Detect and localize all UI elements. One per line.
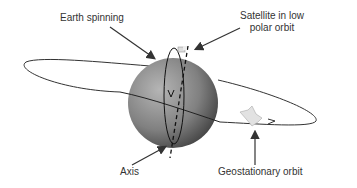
label-earth-spinning: Earth spinning [60, 12, 124, 24]
satellite-pointer [196, 28, 240, 49]
earth-globe [128, 58, 218, 148]
label-geostationary: Geostationary orbit [218, 166, 303, 178]
label-satellite-polar: Satellite in low polar orbit [240, 10, 304, 34]
axis-pointer [132, 147, 165, 165]
label-satellite-line1: Satellite in low [240, 10, 304, 22]
orbit-direction-arrow [268, 119, 275, 124]
earth-spinning-pointer [110, 27, 154, 58]
polar-satellite-icon [178, 46, 187, 52]
label-satellite-line2: polar orbit [240, 22, 304, 34]
label-axis: Axis [120, 166, 139, 178]
